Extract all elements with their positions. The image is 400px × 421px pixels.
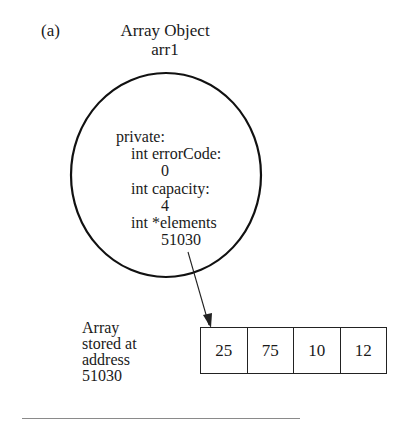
array-cell-1: 75 — [248, 328, 295, 373]
member-decl-capacity: int capacity: — [131, 180, 210, 197]
array-caption-line: 51030 — [82, 368, 137, 384]
member-value-elements: 51030 — [161, 231, 201, 248]
array-caption-line: address — [82, 352, 137, 368]
array-caption: Array stored at address 51030 — [82, 320, 137, 384]
member-decl-errorcode: int errorCode: — [131, 145, 221, 162]
array-cell-2: 10 — [294, 328, 341, 373]
array-storage: 25 75 10 12 — [200, 327, 387, 374]
bottom-rule — [22, 418, 300, 419]
array-cell-3: 12 — [341, 328, 387, 373]
array-caption-line: Array — [82, 320, 137, 336]
member-value-capacity: 4 — [161, 197, 169, 214]
access-specifier: private: — [116, 128, 165, 145]
array-cell-0: 25 — [201, 328, 248, 373]
member-decl-elements: int *elements — [131, 214, 217, 231]
member-value-errorcode: 0 — [161, 162, 169, 179]
pointer-arrow-line — [188, 252, 209, 325]
array-caption-line: stored at — [82, 336, 137, 352]
pointer-arrowhead-icon — [203, 313, 212, 328]
